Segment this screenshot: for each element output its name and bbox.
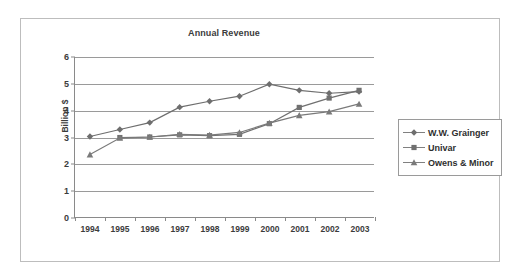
x-tick-mark — [375, 217, 376, 221]
x-tick-label: 1994 — [81, 224, 100, 234]
series-line — [90, 104, 359, 155]
x-tick-mark — [285, 217, 286, 221]
x-tick-mark — [225, 217, 226, 221]
x-tick-mark — [135, 217, 136, 221]
data-point-square — [297, 105, 302, 110]
y-tick-label: 4 — [64, 106, 69, 116]
y-tick-label: 2 — [64, 159, 69, 169]
data-point-diamond — [266, 81, 272, 87]
x-tick-label: 1995 — [111, 224, 130, 234]
data-point-diamond — [176, 104, 182, 110]
data-point-square — [411, 145, 416, 150]
y-tick-label: 0 — [64, 213, 69, 223]
y-tick-label: 5 — [64, 79, 69, 89]
legend-marker-diamond-icon — [403, 127, 425, 138]
x-tick-mark — [315, 217, 316, 221]
y-tick-label: 1 — [64, 186, 69, 196]
data-point-square — [327, 95, 332, 100]
x-tick-label: 1999 — [231, 224, 250, 234]
legend-label: W.W. Grainger — [428, 128, 489, 138]
y-tick-label: 3 — [64, 133, 69, 143]
data-point-square — [356, 88, 361, 93]
x-tick-mark — [165, 217, 166, 221]
chart-frame: Annual Revenue Billion $ 0123456 1994199… — [20, 18, 500, 262]
data-point-diamond — [296, 87, 302, 93]
data-point-diamond — [411, 129, 417, 135]
legend-item[interactable]: Univar — [403, 140, 494, 155]
legend-item[interactable]: Owens & Minor — [403, 155, 494, 170]
data-point-triangle — [356, 101, 363, 107]
series-w-w-grainger — [87, 81, 362, 140]
x-tick-label: 2001 — [291, 224, 310, 234]
x-tick-mark — [105, 217, 106, 221]
x-tick-mark — [255, 217, 256, 221]
data-point-triangle — [411, 159, 418, 165]
data-point-diamond — [117, 126, 123, 132]
chart-figure: Annual Revenue Billion $ 0123456 1994199… — [0, 0, 520, 279]
x-tick-label: 1997 — [171, 224, 190, 234]
chart-title: Annual Revenue — [0, 28, 463, 38]
series-layer — [75, 57, 374, 217]
legend-label: Univar — [428, 143, 456, 153]
data-point-diamond — [147, 119, 153, 125]
x-tick-label: 1998 — [201, 224, 220, 234]
legend-marker-square-icon — [403, 142, 425, 153]
x-tick-label: 2000 — [261, 224, 280, 234]
data-point-diamond — [206, 98, 212, 104]
data-point-diamond — [236, 93, 242, 99]
chart-legend: W.W. GraingerUnivarOwens & Minor — [398, 119, 502, 176]
x-tick-mark — [75, 217, 76, 221]
data-point-diamond — [87, 133, 93, 139]
x-tick-label: 2003 — [351, 224, 370, 234]
x-tick-mark — [195, 217, 196, 221]
x-tick-label: 2002 — [321, 224, 340, 234]
legend-item[interactable]: W.W. Grainger — [403, 125, 494, 140]
legend-label: Owens & Minor — [428, 158, 494, 168]
data-point-triangle — [87, 151, 94, 157]
x-tick-label: 1996 — [141, 224, 160, 234]
series-owens-minor — [87, 101, 363, 158]
x-tick-mark — [345, 217, 346, 221]
legend-marker-triangle-icon — [403, 157, 425, 168]
series-line — [90, 84, 359, 136]
plot-area: 0123456 19941995199619971998199920002001… — [74, 57, 374, 218]
y-tick-label: 6 — [64, 52, 69, 62]
